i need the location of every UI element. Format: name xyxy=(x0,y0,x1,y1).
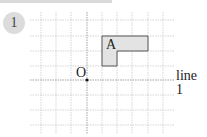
shape-a-label: A xyxy=(106,38,116,52)
point-o-label: O xyxy=(76,66,86,80)
grid-lines xyxy=(30,12,174,134)
line-1-label: line 1 xyxy=(176,69,207,97)
